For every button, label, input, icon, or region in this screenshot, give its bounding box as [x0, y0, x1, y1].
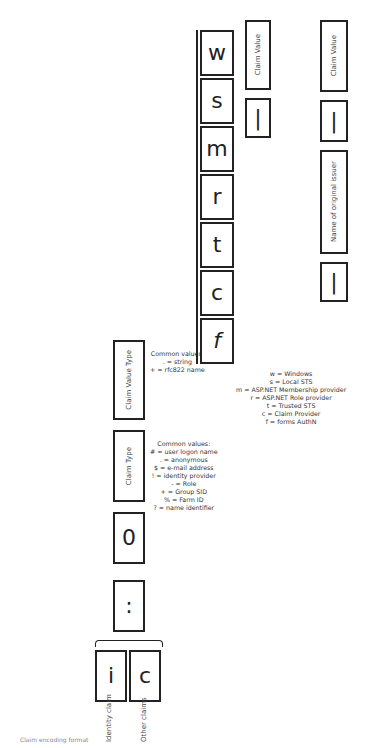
provider-s: s — [200, 78, 234, 124]
provider-divider — [196, 30, 198, 364]
identity-glyph: i — [108, 665, 114, 687]
figure-caption: Claim encoding format — [20, 736, 88, 743]
original-issuer-box: Name of original issuer — [320, 150, 348, 254]
provider-m: m — [200, 126, 234, 172]
windows-pipe: | — [245, 98, 271, 138]
claim-type-box: Claim Type — [113, 430, 145, 502]
identity-claim-label: Identity claim — [105, 700, 113, 742]
windows-claim-value: Claim Value — [245, 20, 271, 90]
zero-cell: 0 — [113, 512, 145, 564]
other-claims-cell: c — [129, 650, 161, 702]
trusted-claim-value: Claim Value — [320, 20, 348, 92]
left-brace — [95, 640, 163, 647]
provider-t: t — [200, 222, 234, 268]
separator-cell: : — [113, 580, 145, 632]
zero-glyph: 0 — [122, 527, 136, 549]
provider-c: c — [200, 270, 234, 316]
provider-legend: w = Windows s = Local STS m = ASP.NET Me… — [236, 370, 346, 426]
provider-f: f — [200, 318, 234, 364]
colon-glyph: : — [125, 595, 132, 617]
provider-w: w — [200, 30, 234, 76]
claim-type-values: Common values: # = user logon name . = a… — [150, 440, 218, 512]
trusted-pipe-1: | — [320, 262, 348, 302]
trusted-pipe-2: | — [320, 100, 348, 142]
claim-value-type-box: Claim Value Type — [113, 340, 145, 420]
other-glyph: c — [139, 665, 151, 687]
other-claims-label: Other claims — [140, 700, 148, 742]
provider-r: r — [200, 174, 234, 220]
